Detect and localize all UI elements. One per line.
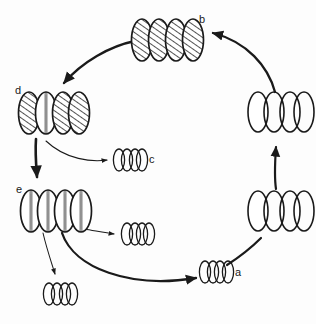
arrow-right-lower-to-right-upper [275,147,276,189]
cycle-diagram-svg [0,0,316,324]
arrow-d-to-c [46,141,107,161]
product-c-units [113,149,147,171]
state-d-units [19,92,90,134]
product-label-c: c [149,154,155,165]
arrow-e-to-product-bottom-left [43,233,55,274]
diagram-canvas: b d e c a [0,0,316,324]
state-label-b: b [199,14,205,25]
state-b-units [132,19,204,61]
state-label-d: d [15,85,21,96]
arrow-e-to-product-mid [84,229,114,234]
state-right-upper-units [248,92,314,132]
state-e-units [21,190,92,232]
product-mid-units [121,223,154,245]
arrow-b-to-d [64,41,135,83]
arrow-d-to-e [36,139,37,177]
arrow-right-upper-to-b [213,33,275,92]
product-bottom-left-units [43,283,77,305]
state-right-lower-units [248,191,314,231]
arrow-a-to-right-lower [227,238,261,265]
product-label-a: a [235,267,241,278]
state-label-e: e [16,184,22,195]
